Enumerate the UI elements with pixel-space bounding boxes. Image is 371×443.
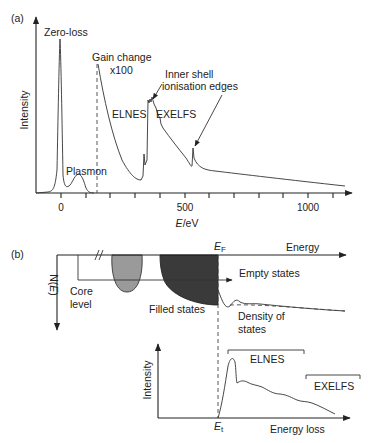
edge-arrow-2: [195, 95, 222, 146]
tick-label-0: 0: [58, 202, 64, 213]
filled-states-label: Filled states: [149, 303, 205, 315]
tick-label-500: 500: [177, 202, 194, 213]
panel-b-label: (b): [11, 248, 24, 260]
eels-figure: (a) 0 500 1000 E/eV Intensity: [0, 0, 371, 443]
zero-loss-label: Zero-loss: [44, 26, 88, 38]
density-of-states-label-2: states: [238, 323, 266, 335]
lower-y-axis-label: Intensity: [141, 360, 153, 400]
fermi-level-label: EF: [214, 240, 226, 254]
elnes-label: ELNES: [112, 108, 146, 120]
exelfs-bracket: [306, 375, 360, 379]
panel-a: (a) 0 500 1000 E/eV Intensity: [11, 12, 352, 229]
x-ticks: [61, 193, 333, 198]
empty-states-label: Empty states: [239, 267, 300, 279]
panel-b: (b) N(E) EF Energy Empty states Core lev…: [11, 240, 360, 435]
dos-axis-label: N(E): [48, 274, 60, 296]
energy-loss-label: Energy loss: [270, 423, 325, 435]
threshold-label: Et: [214, 420, 224, 434]
ionisation-edges-label: ionisation edges: [162, 80, 238, 92]
dos-curve: [218, 290, 345, 311]
x-axis-label: E/eV: [176, 217, 199, 229]
panel-a-label: (a): [11, 12, 24, 24]
core-level-lobe: [112, 255, 142, 292]
exelfs-label: EXELFS: [156, 108, 196, 120]
edge-spectrum-graph: Intensity Energy loss Et ELNES EXELFS: [141, 344, 360, 435]
elnes-bracket-label: ELNES: [250, 353, 284, 365]
gain-change-label: Gain change: [92, 51, 152, 63]
gain-change-factor-label: x100: [110, 64, 133, 76]
energy-label: Energy: [286, 241, 320, 253]
core-level-label: Core: [70, 285, 93, 297]
inner-shell-label: Inner shell: [165, 68, 213, 80]
y-axis-label: Intensity: [18, 90, 30, 130]
plasmon-label: Plasmon: [66, 165, 107, 177]
edge-arrow-1: [153, 84, 162, 99]
density-of-states-label: Density of: [238, 310, 285, 322]
tick-label-1000: 1000: [297, 202, 320, 213]
core-level-label-2: level: [70, 298, 92, 310]
exelfs-bracket-label: EXELFS: [314, 380, 354, 392]
